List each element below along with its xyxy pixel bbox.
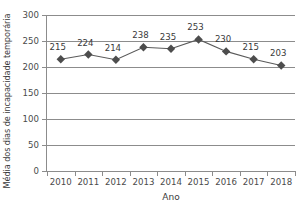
- x-tick-mark: [185, 171, 186, 176]
- data-label: 203: [262, 49, 294, 58]
- x-tick-mark: [102, 171, 103, 176]
- data-point-marker: [112, 56, 120, 64]
- data-point-marker: [194, 35, 202, 43]
- data-point-marker: [57, 55, 65, 63]
- data-label: 235: [152, 33, 184, 42]
- data-point-marker: [167, 45, 175, 53]
- x-tick-mark: [240, 171, 241, 176]
- data-point-marker: [222, 47, 230, 55]
- x-tick-mark: [212, 171, 213, 176]
- x-tick-mark: [47, 171, 48, 176]
- line-chart: Média dos dias de incapacidade temporári…: [0, 0, 303, 211]
- data-point-marker: [249, 55, 257, 63]
- data-label: 253: [180, 23, 212, 32]
- x-tick-mark: [267, 171, 268, 176]
- data-point-marker: [84, 50, 92, 58]
- x-tick-mark: [295, 171, 296, 176]
- data-label: 214: [97, 44, 129, 53]
- x-tick-mark: [130, 171, 131, 176]
- x-axis-title: Ano: [47, 192, 295, 202]
- data-point-marker: [277, 61, 285, 69]
- x-tick-mark: [157, 171, 158, 176]
- data-point-marker: [139, 43, 147, 51]
- x-tick-label: 2018: [264, 178, 298, 187]
- x-tick-mark: [75, 171, 76, 176]
